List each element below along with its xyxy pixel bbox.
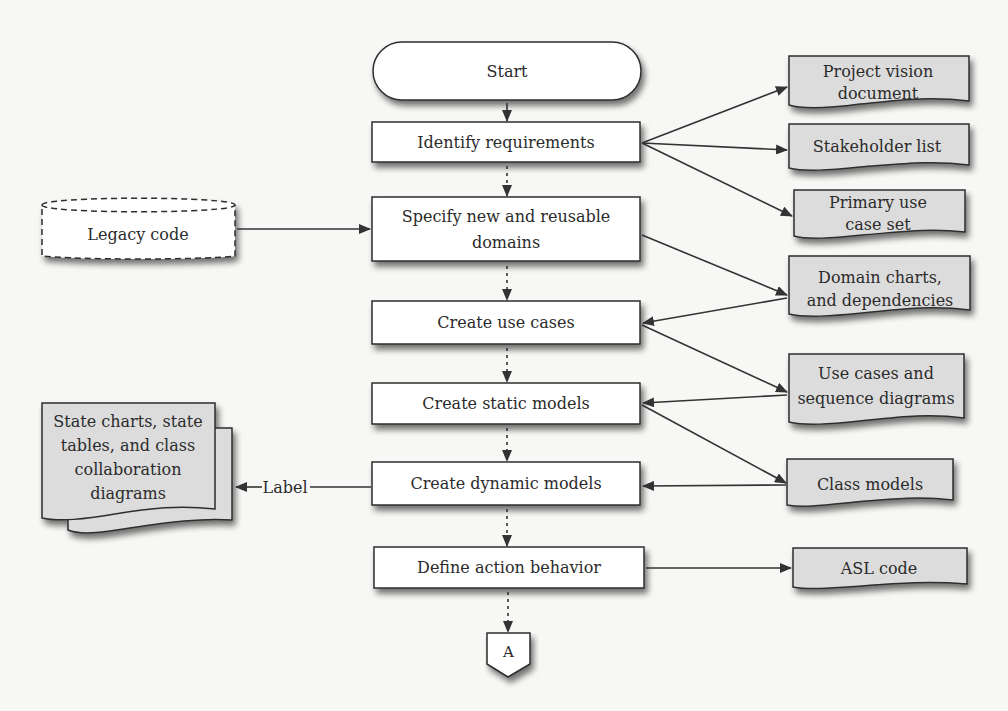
doc-use-cases-sequence-line2: sequence diagrams xyxy=(797,389,954,408)
start-label: Start xyxy=(486,62,528,81)
create-static-models-label: Create static models xyxy=(422,394,590,413)
create-dynamic-models-label: Create dynamic models xyxy=(410,474,601,493)
specify-domains-label-line1: Specify new and reusable xyxy=(402,207,611,226)
doc-domain-charts-line1: Domain charts, xyxy=(818,268,942,287)
doc-stakeholder-list-line1: Stakeholder list xyxy=(813,137,942,156)
specify-domains-label-line2: domains xyxy=(472,233,540,252)
doc-class-models-line1: Class models xyxy=(817,475,923,494)
doc-primary-use-case-set-line1: Primary use xyxy=(829,193,927,212)
doc-asl-code-line1: ASL code xyxy=(840,559,918,578)
connector-a-label: A xyxy=(502,643,514,661)
legacy-code-label: Legacy code xyxy=(87,225,188,244)
statecharts-line1: State charts, state xyxy=(53,412,202,431)
define-action-behavior-label: Define action behavior xyxy=(417,558,601,577)
doc-domain-charts-line2: and dependencies xyxy=(807,291,954,310)
doc-project-vision-line1: Project vision xyxy=(823,62,933,81)
flowchart-canvas: Start Identify requirements Specify new … xyxy=(0,0,1008,711)
doc-primary-use-case-set-line2: case set xyxy=(845,215,911,234)
doc-use-cases-sequence-line1: Use cases and xyxy=(818,364,934,383)
statecharts-line3: collaboration xyxy=(75,460,182,479)
identify-requirements-label: Identify requirements xyxy=(417,133,594,152)
create-use-cases-label: Create use cases xyxy=(437,313,574,332)
doc-project-vision-line2: document xyxy=(838,84,919,103)
statecharts-line2: tables, and class xyxy=(61,436,195,455)
edge-label: Label xyxy=(263,478,308,497)
statecharts-line4: diagrams xyxy=(90,484,166,503)
